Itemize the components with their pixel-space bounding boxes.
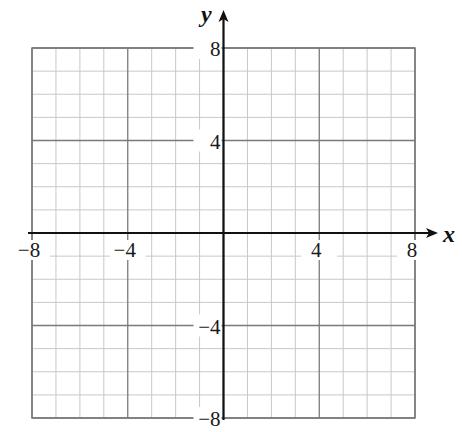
- y-tick-label: 8: [210, 37, 221, 61]
- x-tick-label: 8: [407, 238, 418, 262]
- y-axis-label: y: [198, 1, 212, 27]
- x-axis-label: x: [442, 221, 455, 247]
- y-tick-label: −4: [198, 315, 221, 339]
- coordinate-plane: −8−44884−4−8 x y: [0, 0, 462, 432]
- x-tick-label: −8: [18, 238, 40, 262]
- x-tick-label: −4: [114, 238, 137, 262]
- y-tick-label: 4: [210, 130, 221, 154]
- y-tick-label: −8: [198, 407, 220, 431]
- x-tick-label: 4: [311, 238, 322, 262]
